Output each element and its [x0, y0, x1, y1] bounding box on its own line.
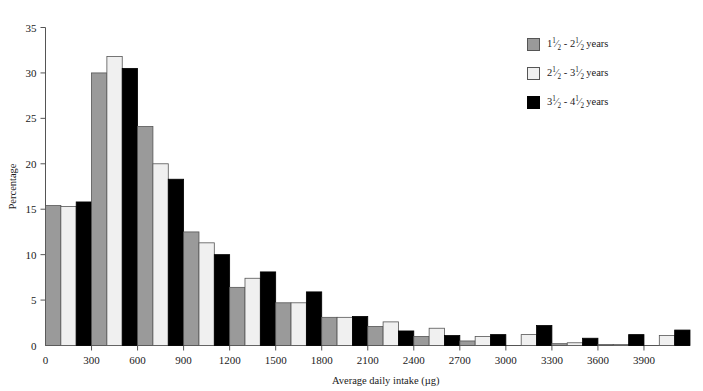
bar — [491, 335, 506, 346]
bar — [537, 326, 552, 346]
x-tick-label: 1800 — [311, 354, 334, 366]
x-tick-label: 2400 — [403, 354, 426, 366]
legend-item: 31⁄2 - 41⁄2 years — [527, 96, 608, 109]
bar — [429, 328, 444, 345]
legend-range-dash: - — [561, 38, 570, 49]
bar — [184, 232, 199, 346]
bar — [153, 164, 168, 346]
bar — [583, 338, 598, 345]
legend-range-low: 31⁄2 — [547, 97, 561, 108]
bar — [337, 317, 352, 345]
chart-canvas: 05101520253035 0300600900120015001800210… — [0, 0, 703, 391]
bar — [460, 341, 475, 346]
bar — [414, 336, 429, 345]
legend-range-dash: - — [561, 96, 570, 107]
bar — [567, 343, 582, 346]
bar — [659, 336, 674, 346]
y-tick-label: 25 — [26, 112, 38, 124]
bar — [629, 335, 644, 346]
x-tick-label: 300 — [83, 354, 100, 366]
legend-range-low: 21⁄2 — [547, 68, 561, 79]
bar — [276, 303, 291, 346]
bar — [675, 330, 690, 345]
x-tick-label: 0 — [43, 354, 49, 366]
bar — [46, 206, 61, 346]
bar — [168, 179, 183, 345]
legend-item-label: 11⁄2 - 21⁄2 years — [547, 39, 608, 50]
bar — [122, 68, 137, 345]
bar — [322, 317, 337, 345]
legend-range-high: 41⁄2 — [570, 97, 584, 108]
bar — [598, 345, 613, 346]
bar — [214, 255, 229, 346]
bar — [613, 345, 628, 346]
bar — [306, 292, 321, 346]
bar-chart: 05101520253035 0300600900120015001800210… — [0, 0, 703, 391]
x-tick-label: 3300 — [541, 354, 564, 366]
y-tick-label: 20 — [26, 158, 38, 170]
bar — [475, 336, 490, 345]
y-tick-labels: 05101520253035 — [26, 22, 38, 352]
legend-unit: years — [584, 38, 608, 49]
x-tick-label: 3600 — [587, 354, 610, 366]
legend-unit: years — [584, 67, 608, 78]
x-tick-label: 2100 — [357, 354, 380, 366]
bar — [107, 57, 122, 346]
bar — [398, 331, 413, 346]
legend-range-high: 21⁄2 — [570, 39, 584, 50]
legend-range-low: 11⁄2 — [547, 39, 561, 50]
bar — [76, 202, 91, 346]
bar — [199, 243, 214, 346]
x-tick-label: 3000 — [495, 354, 518, 366]
y-tick-label: 30 — [26, 67, 38, 79]
legend-swatch-black-icon — [527, 96, 540, 109]
bar — [138, 127, 153, 346]
x-tick-label: 1500 — [265, 354, 288, 366]
y-tick-label: 35 — [26, 22, 38, 34]
y-tick-label: 0 — [31, 340, 37, 352]
bar — [291, 303, 306, 346]
bar — [260, 272, 275, 346]
legend-item-label: 21⁄2 - 31⁄2 years — [547, 68, 608, 79]
legend-item: 21⁄2 - 31⁄2 years — [527, 67, 608, 80]
x-tick-label: 1200 — [219, 354, 242, 366]
bar — [368, 326, 383, 345]
bar — [521, 335, 536, 346]
legend-swatch-white-icon — [527, 67, 540, 80]
bar — [230, 287, 245, 345]
legend-range-high: 31⁄2 — [570, 68, 584, 79]
bar — [552, 344, 567, 346]
x-tick-label: 3900 — [633, 354, 656, 366]
legend-unit: years — [584, 96, 608, 107]
y-tick-label: 15 — [26, 203, 38, 215]
legend-range-dash: - — [561, 67, 570, 78]
bar — [245, 278, 260, 345]
legend-item: 11⁄2 - 21⁄2 years — [527, 38, 608, 51]
x-tick-label: 900 — [175, 354, 192, 366]
bar — [444, 336, 459, 346]
bar — [61, 206, 76, 345]
x-tick-labels: 0300600900120015001800210024002700300033… — [43, 354, 656, 366]
legend-swatch-gray-icon — [527, 38, 540, 51]
y-axis-title: Percentage — [7, 163, 18, 209]
y-tick-label: 5 — [31, 294, 37, 306]
bar — [352, 316, 367, 345]
bar — [383, 322, 398, 346]
x-axis-title: Average daily intake (µg) — [332, 375, 440, 387]
y-tick-label: 10 — [26, 249, 38, 261]
legend-item-label: 31⁄2 - 41⁄2 years — [547, 97, 608, 108]
x-tick-label: 2700 — [449, 354, 472, 366]
bar — [92, 73, 107, 346]
x-tick-label: 600 — [129, 354, 146, 366]
